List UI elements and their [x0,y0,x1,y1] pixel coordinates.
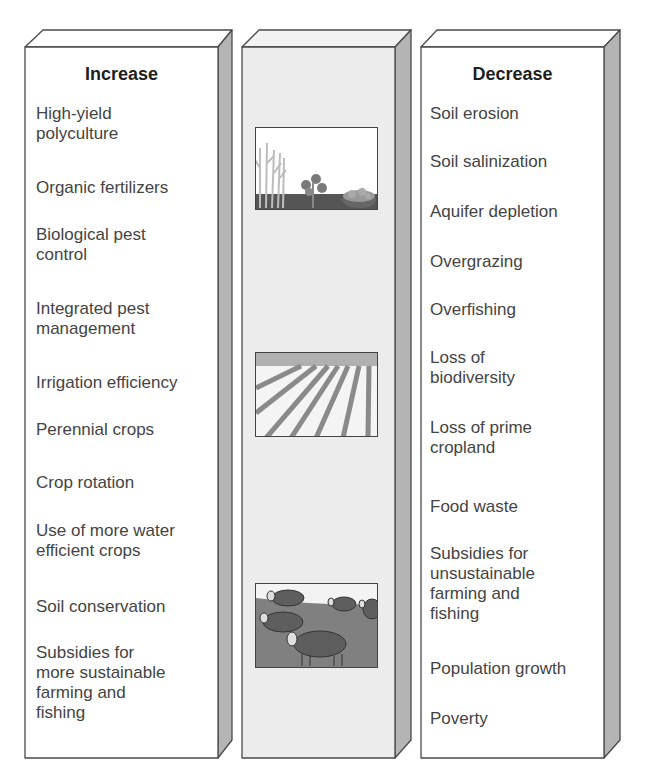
produce-basket-icon [342,188,376,208]
decrease-column: Decrease Soil erosionSoil salinizationAq… [421,47,604,758]
increase-column: Increase High-yield polycultureOrganic f… [25,47,218,758]
list-item: Perennial crops [36,420,154,440]
list-item: Loss of biodiversity [430,348,515,388]
plowed-field-illustration [255,352,378,437]
list-item: Population growth [430,659,566,679]
illustration-column [242,47,395,758]
list-item: Overfishing [430,300,516,320]
list-item: Food waste [430,497,518,517]
list-item: High-yield polyculture [36,104,118,144]
list-item: Soil erosion [430,104,519,124]
decrease-heading: Decrease [421,64,604,85]
list-item: Soil conservation [36,597,165,617]
list-item: Irrigation efficiency [36,373,177,393]
crops-illustration [255,127,378,210]
list-item: Loss of prime cropland [430,418,532,458]
increase-heading: Increase [25,64,218,85]
list-item: Biological pest control [36,225,146,265]
list-item: Aquifer depletion [430,202,558,222]
list-item: Subsidies for unsustainable farming and … [430,544,535,624]
list-item: Poverty [430,709,488,729]
list-item: Crop rotation [36,473,134,493]
list-item: Use of more water efficient crops [36,521,175,561]
list-item: Subsidies for more sustainable farming a… [36,643,165,723]
list-item: Organic fertilizers [36,178,168,198]
list-item: Overgrazing [430,252,523,272]
list-item: Soil salinization [430,152,547,172]
list-item: Integrated pest management [36,299,149,339]
grazing-sheep-illustration [255,583,378,668]
furrow-lines-icon [256,366,369,437]
